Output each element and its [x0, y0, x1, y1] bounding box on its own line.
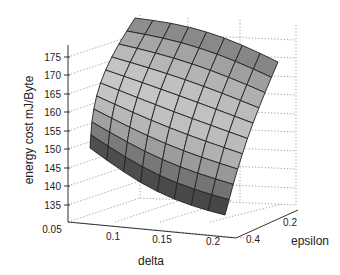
z-tick-135: 135 [44, 200, 61, 211]
z-axis-label: energy cost mJ/Byte [22, 75, 36, 184]
z-tick-labels: 175 170 165 160 155 150 145 140 135 [44, 52, 61, 211]
z-tick-170: 170 [44, 70, 61, 81]
x-axis-label: delta [138, 254, 164, 268]
z-tick-160: 160 [44, 107, 61, 118]
y-axis-label: epsilon [291, 234, 329, 248]
x-tick-0.15: 0.15 [152, 234, 172, 245]
y-tick-0.4: 0.4 [246, 234, 260, 245]
z-tick-155: 155 [44, 126, 61, 137]
y-tick-0.2: 0.2 [283, 217, 297, 228]
z-tick-165: 165 [44, 89, 61, 100]
x-tick-0.1: 0.1 [106, 231, 120, 242]
energy-surface [90, 18, 278, 215]
z-tick-175: 175 [44, 52, 61, 63]
z-tick-145: 145 [44, 163, 61, 174]
z-tick-140: 140 [44, 181, 61, 192]
x-tick-0.05: 0.05 [42, 224, 62, 235]
y-tick-labels: 0.4 0.2 [246, 217, 297, 245]
x-tick-0.2: 0.2 [206, 236, 220, 247]
surface-chart: 175 170 165 160 155 150 145 140 135 0.05… [0, 0, 340, 275]
z-tick-150: 150 [44, 144, 61, 155]
x-tick-labels: 0.05 0.1 0.15 0.2 [42, 224, 220, 247]
